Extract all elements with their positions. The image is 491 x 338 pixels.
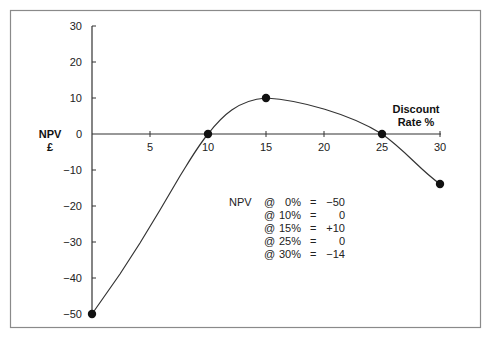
x-tick-label: 5 [147, 141, 153, 153]
y-axis-title-line2: £ [47, 141, 53, 153]
y-tick-label: −50 [63, 308, 82, 320]
table-at: @ [264, 248, 275, 260]
data-point-25pct [378, 130, 386, 138]
y-tick-label: −20 [63, 200, 82, 212]
table-at: @ [264, 196, 275, 208]
x-axis-title-line1: Discount [392, 103, 439, 115]
data-point-15pct [262, 94, 270, 102]
x-tick-label: 20 [318, 141, 330, 153]
table-eq: = [310, 209, 316, 221]
table-at: @ [264, 222, 275, 234]
x-axis-title-line2: Rate % [398, 116, 435, 128]
table-eq: = [310, 235, 316, 247]
y-tick-label: 0 [76, 128, 82, 140]
table-at: @ [264, 209, 275, 221]
data-point-0pct [88, 310, 96, 318]
table-eq: = [310, 222, 316, 234]
table-rate: 10% [279, 209, 301, 221]
table-at: @ [264, 235, 275, 247]
table-rate: 25% [279, 235, 301, 247]
table-eq: = [310, 196, 316, 208]
table-rate: 0% [285, 196, 301, 208]
y-tick-label: 30 [70, 20, 82, 32]
table-value: −14 [326, 248, 345, 260]
x-tick-label: 10 [202, 141, 214, 153]
y-tick-label: −10 [63, 164, 82, 176]
x-tick-label: 25 [376, 141, 388, 153]
x-tick-label: 30 [434, 141, 446, 153]
table-rate: 15% [279, 222, 301, 234]
y-tick-label: 20 [70, 56, 82, 68]
table-eq: = [310, 248, 316, 260]
table-value: −50 [326, 196, 345, 208]
x-axis-title: Discount Rate % [392, 103, 439, 128]
y-tick-label: 10 [70, 92, 82, 104]
table-value: 0 [339, 235, 345, 247]
y-tick-label: −40 [63, 272, 82, 284]
y-tick-label: −30 [63, 236, 82, 248]
data-point-10pct [204, 130, 212, 138]
y-axis-title-line1: NPV [39, 128, 62, 140]
table-value: 0 [339, 209, 345, 221]
table-value: +10 [326, 222, 345, 234]
npv-chart: 30 20 10 0 −10 −20 −30 −40 −50 5 10 15 2… [0, 0, 491, 338]
data-point-30pct [436, 180, 444, 188]
table-label: NPV [229, 196, 252, 208]
table-rate: 30% [279, 248, 301, 260]
x-tick-label: 15 [260, 141, 272, 153]
